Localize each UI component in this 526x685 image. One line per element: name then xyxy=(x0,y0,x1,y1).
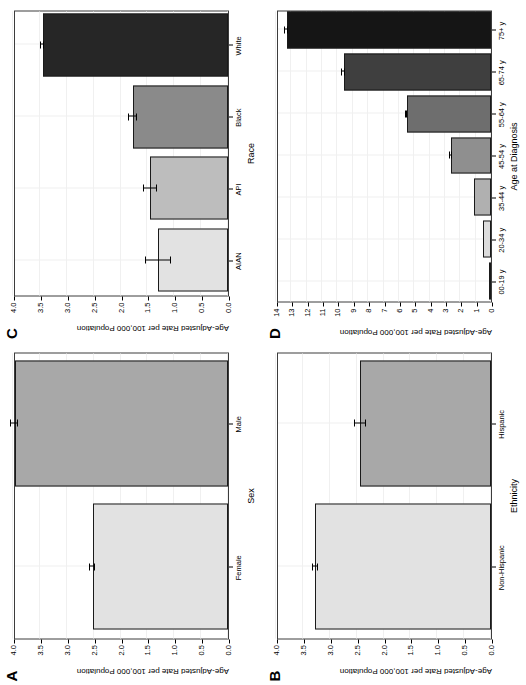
y-axis-tick xyxy=(461,303,462,307)
panel-A: A FemaleMale0.00.51.01.52.02.53.03.54.0S… xyxy=(0,343,263,685)
error-bar-cap xyxy=(143,184,144,191)
error-bar-cap xyxy=(287,26,288,33)
y-axis-tick xyxy=(415,303,416,307)
y-axis-tick xyxy=(148,297,149,301)
gridline-horizontal xyxy=(290,11,291,302)
error-bar-cap xyxy=(344,68,345,75)
y-axis-tick xyxy=(95,639,96,643)
error-bar-cap xyxy=(365,419,366,426)
y-axis-tick xyxy=(438,639,439,643)
y-axis-tick-label: 1.5 xyxy=(407,645,415,655)
y-axis-title: Age-Adjusted Rate per 100,000 Population xyxy=(340,328,492,337)
error-bar-cap xyxy=(317,563,318,570)
x-axis-tick xyxy=(492,566,496,567)
gridline-horizontal xyxy=(275,354,276,639)
y-axis-tick-label: 0.0 xyxy=(225,302,233,312)
y-axis-tick-label: 4.0 xyxy=(10,645,18,655)
y-axis-tick-label: 2 xyxy=(457,308,465,312)
x-axis-tick xyxy=(492,113,496,114)
y-axis-tick xyxy=(354,303,355,307)
y-axis-tick xyxy=(41,297,42,301)
y-axis-tick-label: 3.0 xyxy=(64,302,72,312)
y-axis-tick xyxy=(431,303,432,307)
y-axis-tick xyxy=(492,639,493,643)
y-axis-tick-label: 3.5 xyxy=(37,302,45,312)
panel-letter-C: C xyxy=(4,328,19,339)
error-bar-cap xyxy=(451,152,452,159)
x-axis-tick-label: Non-Hispanic xyxy=(498,496,506,640)
y-axis-tick xyxy=(308,303,309,307)
y-axis-tick xyxy=(338,303,339,307)
y-axis-tick-label: 8 xyxy=(365,308,373,312)
y-axis-tick-label: 13 xyxy=(288,308,296,316)
x-axis-tick-label: API xyxy=(235,153,243,225)
bar-male xyxy=(15,360,228,486)
bar-35-44-y xyxy=(474,178,491,215)
gridline-horizontal xyxy=(302,354,303,639)
y-axis-tick-label: 2.0 xyxy=(118,302,126,312)
y-axis-title: Age-Adjusted Rate per 100,000 Population xyxy=(77,666,229,675)
error-bar-cap xyxy=(17,419,18,426)
x-axis-tick xyxy=(492,239,496,240)
x-axis-tick xyxy=(229,566,233,567)
error-bar-cap xyxy=(449,152,450,159)
x-axis-tick-label: Female xyxy=(235,496,243,640)
x-axis-tick-label: White xyxy=(235,10,243,82)
x-axis-tick xyxy=(492,423,496,424)
y-axis-tick xyxy=(202,639,203,643)
bar-female xyxy=(93,503,228,629)
y-axis-tick-label: 4.0 xyxy=(10,302,18,312)
y-axis-tick-label: 5 xyxy=(411,308,419,312)
y-axis-tick-label: 11 xyxy=(319,308,327,316)
error-bar-cap xyxy=(406,110,407,117)
y-axis-tick-label: 0 xyxy=(488,308,496,312)
y-axis-tick-label: 2.0 xyxy=(381,645,389,655)
y-axis-tick-label: 1.0 xyxy=(434,645,442,655)
bar-55-64-y xyxy=(407,95,491,132)
y-axis-tick xyxy=(175,639,176,643)
y-axis-tick-label: 2.5 xyxy=(91,302,99,312)
x-axis-tick-label: Black xyxy=(235,81,243,153)
y-axis-tick-label: 6 xyxy=(396,308,404,312)
x-axis-tick xyxy=(229,260,233,261)
y-axis-tick-label: 1.0 xyxy=(171,645,179,655)
x-axis-tick xyxy=(229,116,233,117)
y-axis-tick-label: 0.5 xyxy=(198,645,206,655)
error-bar-cap xyxy=(94,563,95,570)
gridline-vertical xyxy=(278,196,491,197)
bar-white xyxy=(43,13,228,76)
y-axis-tick xyxy=(323,303,324,307)
bar-20-34-y xyxy=(483,220,491,257)
error-bar-cap xyxy=(156,184,157,191)
panel-letter-B: B xyxy=(267,670,282,681)
y-axis-tick xyxy=(277,303,278,307)
y-axis-title: Age-Adjusted Rate per 100,000 Population xyxy=(77,324,229,333)
x-axis-tick-label: 65-74 y xyxy=(498,51,506,93)
bar-api xyxy=(150,156,228,219)
x-axis-tick-label: Male xyxy=(235,352,243,496)
y-axis-tick-label: 1.5 xyxy=(144,645,152,655)
error-bar-cap xyxy=(128,113,129,120)
bar-00-19-y xyxy=(489,262,491,299)
x-axis-tick xyxy=(492,29,496,30)
x-axis-tick xyxy=(492,155,496,156)
x-axis-tick-label: 75+ y xyxy=(498,10,506,52)
figure-rotation-wrapper: A FemaleMale0.00.51.01.52.02.53.03.54.0S… xyxy=(0,0,526,685)
x-axis-tick xyxy=(492,197,496,198)
y-axis-tick xyxy=(358,639,359,643)
error-bar-cap xyxy=(89,563,90,570)
bar-75-y xyxy=(287,11,491,48)
bar-65-74-y xyxy=(344,53,491,90)
error-bar-cap xyxy=(170,256,171,263)
y-axis-title: Age-Adjusted Rate per 100,000 Population xyxy=(340,666,492,675)
error-bar-cap xyxy=(405,110,406,117)
y-axis-tick-label: 12 xyxy=(304,308,312,316)
y-axis-tick xyxy=(229,639,230,643)
y-axis-tick xyxy=(68,297,69,301)
y-axis-tick-label: 10 xyxy=(334,308,342,316)
y-axis-tick-label: 1 xyxy=(473,308,481,312)
x-axis-tick xyxy=(492,71,496,72)
error-bar-cap xyxy=(40,41,41,48)
plot-area-C xyxy=(14,10,229,297)
x-axis-tick-label: 45-54 y xyxy=(498,135,506,177)
